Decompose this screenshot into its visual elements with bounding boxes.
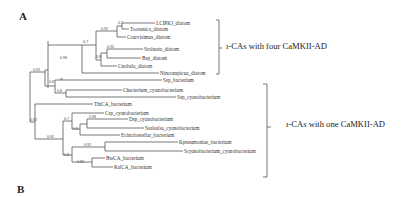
group-text: -CAs with four CaMKII-AD <box>228 41 327 51</box>
leaf-bsp: Bsp_diatom <box>142 55 167 61</box>
leaf-ralca: RalCA_bacterium <box>114 164 152 170</box>
bootstrap-value: 0.92 <box>33 68 40 72</box>
bootstrap-value: 0.7 <box>118 21 123 25</box>
group-label-one-camkii: ι-CAs with one CaMKII-AD <box>286 119 385 129</box>
leaf-ninconspicua: Ninconspicua_diatom <box>160 70 206 76</box>
leaf-thica: ThiCA_bacterium <box>94 101 132 107</box>
bracket-four-camkii <box>216 20 222 74</box>
bracket-one-camkii <box>263 84 271 177</box>
bootstrap-value: 0.82 <box>77 160 84 164</box>
leaf-chacterium: Chacterium_cyanobacterium <box>123 87 183 93</box>
leaf-kpneumoniae: Kpneumoniae_bacterium <box>179 139 231 145</box>
leaf-ssp-cyanobacterium: Ssp_cyanobacterium <box>177 94 220 100</box>
leaf-bteca: BteCA_bacterium <box>106 155 144 161</box>
leaf-ssp-bacterium: Ssp_bacterium <box>163 77 194 83</box>
bootstrap-value: 0.8 <box>96 55 101 59</box>
group-text: -CAs with one CaMKII-AD <box>288 119 385 129</box>
bootstrap-value: 0.98 <box>89 115 96 119</box>
bootstrap-value: 0.7 <box>83 40 88 44</box>
bootstrap-value: 0.7 <box>64 117 69 121</box>
bootstrap-value: 0.98 <box>60 56 67 60</box>
leaf-srobusta: Srobusta_diatom <box>144 46 179 52</box>
bootstrap-value: 0.8 <box>73 127 78 131</box>
leaf-scyanobacterium: Scyanobacterium_cyanobacterium <box>184 148 256 154</box>
bootstrap-value: 0.8 <box>64 153 69 157</box>
bootstrap-value: 0.92 <box>84 143 91 147</box>
bootstrap-value: 0.8 <box>49 80 54 84</box>
phylogenetic-tree: LCIPKJ_diatom Toceanica_diatom Ccurvisim… <box>0 0 410 197</box>
bootstrap-value: 0.92 <box>107 45 114 49</box>
bootstrap-value: 0.8 <box>57 89 62 93</box>
leaf-cnobala: Cnobala_diatom <box>118 63 152 69</box>
leaf-ssalsalsa: Ssalsalsa_cyanobacterium <box>145 125 199 131</box>
leaf-toceanica: Toceanica_diatom <box>130 26 168 32</box>
bootstrap-value: 0.92 <box>101 27 108 31</box>
group-label-four-camkii: ι-CAs with four CaMKII-AD <box>226 41 327 51</box>
bootstrap-value: 0.92 <box>47 135 54 139</box>
leaf-dsp: Dsp_cyanobacterium <box>129 116 173 122</box>
leaf-ecinctiostellar: Ecinctiostellar_bacterium <box>121 132 174 138</box>
leaf-ccurvisimus: Ccurvisimus_diatom <box>127 34 170 40</box>
bootstrap-value: 0.92 <box>30 118 37 122</box>
